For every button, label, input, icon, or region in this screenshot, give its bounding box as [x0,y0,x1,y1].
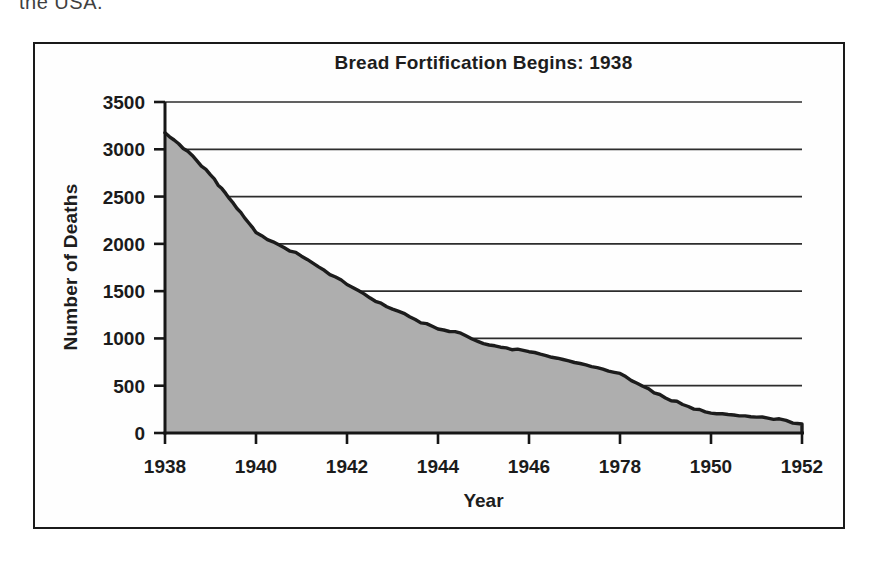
chart-figure: 0500100015002000250030003500193819401942… [33,42,845,529]
page: the USA. 0500100015002000250030003500193… [0,0,875,567]
chart-title: Bread Fortification Begins: 1938 [165,52,802,74]
area-fill [165,133,802,433]
y-tick-label: 1500 [103,281,145,302]
y-axis-title: Number of Deaths [60,184,82,351]
y-tick-label: 2000 [103,234,145,255]
y-tick-label: 3500 [103,92,145,113]
x-tick-label: 1946 [508,456,550,477]
x-tick-label: 1940 [235,456,277,477]
x-tick-label: 1978 [599,456,641,477]
y-tick-label: 2500 [103,187,145,208]
cropped-paragraph-text: the USA. [19,0,103,13]
x-tick-label: 1942 [326,456,368,477]
x-tick-label: 1944 [417,456,460,477]
y-tick-label: 1000 [103,328,145,349]
y-tick-label: 500 [113,376,145,397]
x-tick-label: 1950 [690,456,732,477]
y-tick-label: 0 [134,423,145,444]
y-tick-label: 3000 [103,139,145,160]
x-tick-label: 1952 [781,456,823,477]
x-axis-title: Year [165,490,802,512]
chart-svg: 0500100015002000250030003500193819401942… [35,44,843,527]
x-tick-label: 1938 [144,456,186,477]
